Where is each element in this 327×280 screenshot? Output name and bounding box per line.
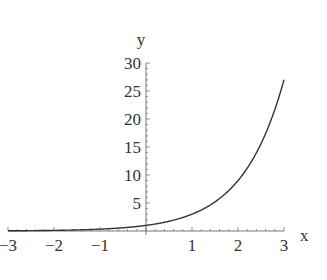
x-tick-label: −3 — [0, 236, 17, 255]
tick-labels: −3−2−112351015202530 — [0, 54, 288, 255]
chart: −3−2−112351015202530 x y — [0, 0, 327, 280]
y-tick-label: 10 — [124, 166, 141, 185]
y-tick-label: 5 — [133, 194, 142, 213]
x-tick-label: −1 — [91, 236, 109, 255]
x-tick-label: −2 — [45, 236, 63, 255]
x-axis-label: x — [300, 226, 309, 245]
x-tick-label: 1 — [188, 236, 197, 255]
y-tick-label: 15 — [124, 138, 141, 157]
axes — [8, 63, 284, 235]
y-axis-label: y — [137, 30, 146, 49]
y-tick-label: 20 — [124, 110, 141, 129]
x-tick-label: 3 — [280, 236, 289, 255]
y-tick-label: 25 — [124, 82, 141, 101]
x-tick-label: 2 — [234, 236, 243, 255]
y-tick-label: 30 — [124, 54, 141, 73]
